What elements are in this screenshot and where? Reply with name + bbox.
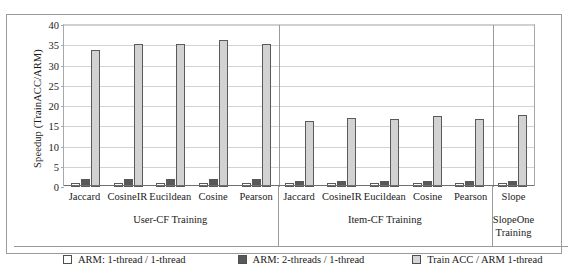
bar (262, 44, 271, 187)
bar (219, 40, 228, 187)
legend-label: ARM: 2-threads / 1-thread (253, 254, 365, 265)
x-axis-group-label-line: User-CF Training (63, 213, 278, 226)
legend-swatch-icon (63, 255, 72, 264)
bar (475, 119, 484, 187)
x-axis-category-label: Cosine (406, 187, 449, 209)
bar-category-group (192, 25, 235, 187)
x-axis-category-label: Pearson (449, 187, 492, 209)
bar-category-group (64, 25, 107, 187)
bar-category-group (278, 25, 321, 187)
plot-wrapper: 0510152025303540 (63, 24, 535, 192)
bar-category-group (363, 25, 406, 187)
bar-groups (64, 25, 534, 187)
x-axis-category-label: Jaccard (63, 187, 106, 209)
x-axis-category-label: Eucildean (149, 187, 192, 209)
bar-category-group (449, 25, 492, 187)
bar-category-group (406, 25, 449, 187)
bar (305, 121, 314, 187)
legend-label: Train ACC / ARM 1-thread (427, 254, 542, 265)
y-axis-tick-label: 35 (49, 40, 60, 51)
y-axis-tick-label: 20 (49, 101, 60, 112)
legend-item[interactable]: ARM: 2-threads / 1-thread (238, 254, 365, 265)
bar-category-group (235, 25, 278, 187)
bar (347, 118, 356, 187)
x-axis-category-label: Cosine (192, 187, 235, 209)
y-axis-tick-label: 0 (54, 182, 59, 193)
y-axis-tick-label: 40 (49, 20, 60, 31)
bar (518, 115, 527, 187)
figure-container: Speedup (TrainACC/ARM) 0510152025303540 … (0, 0, 572, 266)
legend-item[interactable]: Train ACC / ARM 1-thread (412, 254, 542, 265)
y-axis-title: Speedup (TrainACC/ARM) (32, 19, 43, 199)
legend-swatch-icon (238, 255, 247, 264)
x-axis-category-label: Jaccard (278, 187, 321, 209)
y-axis-tick-label: 15 (49, 121, 60, 132)
bar (176, 44, 185, 187)
x-axis-category-label: Slope (492, 187, 535, 209)
group-separator (493, 25, 494, 187)
x-axis-group-label: Item-CF Training (278, 208, 493, 246)
x-axis-category-label: Eucildean (363, 187, 406, 209)
bar (390, 119, 399, 187)
x-axis-category-label: CosineIR (106, 187, 149, 209)
x-axis-group-labels: User-CF TrainingItem-CF TrainingSlopeOne… (63, 208, 535, 246)
chart-frame: Speedup (TrainACC/ARM) 0510152025303540 … (6, 14, 562, 254)
x-axis-category-label: CosineIR (320, 187, 363, 209)
x-axis-group-label-line: Item-CF Training (278, 213, 493, 226)
plot-area: 0510152025303540 (63, 24, 535, 186)
group-separator (278, 186, 279, 246)
bar-category-group (491, 25, 534, 187)
y-axis-tick-label: 5 (54, 161, 59, 172)
x-axis-group-label: SlopeOneTraining (492, 208, 535, 246)
group-separator (492, 186, 493, 246)
bar (91, 50, 100, 187)
legend-item[interactable]: ARM: 1-thread / 1-thread (63, 254, 186, 265)
bar (433, 116, 442, 187)
chart-legend: ARM: 1-thread / 1-threadARM: 2-threads /… (63, 250, 543, 266)
legend-divider (14, 246, 568, 247)
bar-category-group (107, 25, 150, 187)
bar-category-group (320, 25, 363, 187)
bar-category-group (149, 25, 192, 187)
y-axis-tick-label: 10 (49, 141, 60, 152)
x-axis-line (64, 185, 534, 186)
legend-swatch-icon (412, 255, 421, 264)
y-axis-tick-label: 30 (49, 60, 60, 71)
x-axis-category-label: Pearson (235, 187, 278, 209)
y-axis-tick-label: 25 (49, 80, 60, 91)
x-axis-group-label-line: SlopeOne (492, 213, 535, 226)
x-axis-group-label: User-CF Training (63, 208, 278, 246)
group-separator (279, 25, 280, 187)
x-axis-group-label-line: Training (492, 226, 535, 239)
x-axis-category-labels: JaccardCosineIREucildeanCosinePearsonJac… (63, 187, 535, 209)
bar (134, 44, 143, 187)
legend-label: ARM: 1-thread / 1-thread (78, 254, 186, 265)
